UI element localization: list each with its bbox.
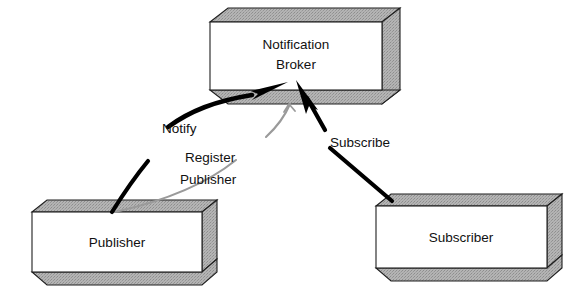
publisher-label: Publisher bbox=[89, 235, 146, 250]
register-publisher-arrowhead bbox=[284, 104, 295, 112]
subscriber-top-face bbox=[376, 194, 562, 206]
node-notification-broker[interactable]: Notification Broker bbox=[210, 8, 400, 104]
register-publisher-label-line1: Register bbox=[185, 150, 236, 165]
node-publisher[interactable]: Publisher bbox=[32, 200, 217, 285]
notify-label: Notify bbox=[162, 121, 197, 136]
notification-broker-label-line2: Broker bbox=[276, 57, 316, 72]
register-publisher-label-group: Register Publisher bbox=[180, 150, 237, 187]
diagram-canvas: Notification Broker Publisher Subscriber bbox=[0, 0, 579, 306]
subscribe-label: Subscribe bbox=[330, 135, 390, 150]
node-subscriber[interactable]: Subscriber bbox=[376, 194, 562, 281]
notification-broker-label-line1: Notification bbox=[263, 37, 330, 52]
register-publisher-label-line2: Publisher bbox=[180, 172, 237, 187]
subscribe-line-lower bbox=[330, 148, 392, 201]
pubsub-diagram: Notification Broker Publisher Subscriber bbox=[0, 0, 579, 306]
notification-broker-top-face bbox=[210, 8, 400, 22]
subscriber-label: Subscriber bbox=[429, 230, 494, 245]
